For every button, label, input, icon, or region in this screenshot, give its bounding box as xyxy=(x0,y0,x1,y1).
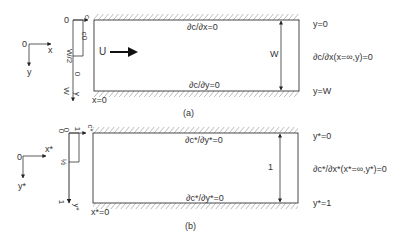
axis-x-label-b: x* xyxy=(45,145,53,154)
caption-a: (a) xyxy=(183,109,194,118)
flow-velocity-label: U xyxy=(99,47,106,57)
profile-zero-label-a: 0 xyxy=(73,72,81,76)
profile-c-axis-a: c xyxy=(83,15,91,19)
caption-b: (b) xyxy=(185,222,196,231)
profile-value-label-a: c0 xyxy=(80,32,88,40)
outlet-bc-a: ∂c/∂x(x=∞,y)=0 xyxy=(313,53,373,62)
y-bottom-label-b: y*=1 xyxy=(313,199,331,208)
top-wall-a xyxy=(94,14,299,20)
profile-mid-label-a: W/2 xyxy=(65,49,73,63)
top-bc-b: ∂c*/∂y*=0 xyxy=(185,136,223,145)
flow-arrow-icon xyxy=(110,47,138,57)
width-label-b: 1 xyxy=(268,163,273,172)
profile-c-axis-b: c* xyxy=(86,124,94,131)
bottom-bc-b: ∂c*/∂y*=0 xyxy=(186,194,224,203)
y-bottom-label-a: y=W xyxy=(313,87,331,96)
axes-b-icon xyxy=(23,156,46,178)
bottom-bc-a: ∂c/∂y=0 xyxy=(189,81,220,90)
axis-x-label-a: x xyxy=(48,46,53,55)
top-wall-b xyxy=(93,127,298,133)
profile-y-axis-b: y* xyxy=(72,203,80,210)
panel-b xyxy=(23,127,298,209)
profile-bottom-label-b: 1 xyxy=(57,200,65,204)
y-top-label-a: y=0 xyxy=(313,20,328,29)
profile-y-axis-a: y xyxy=(73,92,81,96)
y-top-label-b: y*=0 xyxy=(313,132,331,141)
bottom-wall-b xyxy=(93,203,298,209)
inlet-profile-b xyxy=(69,133,86,203)
profile-mid-label-b: ½ xyxy=(59,159,67,166)
x-start-label-b: x*=0 xyxy=(91,208,109,217)
width-label-a: W xyxy=(270,50,279,59)
bottom-wall-a xyxy=(94,91,299,97)
top-bc-a: ∂c/∂x=0 xyxy=(187,23,218,32)
outlet-bc-b: ∂c*/∂x*(x*=∞,y*)=0 xyxy=(313,165,387,174)
axis-y-label-b: y* xyxy=(18,182,26,191)
profile-top-label2-b: 0 xyxy=(62,128,70,132)
profile-value-label-b: 1 xyxy=(73,127,81,131)
profile-bottom-label-a: W xyxy=(62,87,70,95)
axis-origin-b: 0 xyxy=(17,153,22,162)
axis-y-label-a: y xyxy=(27,68,32,77)
x-start-label-a: x=0 xyxy=(92,96,107,105)
axis-origin-a: 0 xyxy=(22,40,27,49)
profile-top-label-a: 0 xyxy=(64,16,69,25)
